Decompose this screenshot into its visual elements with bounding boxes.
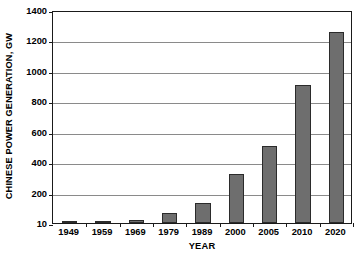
bar: [129, 220, 144, 223]
y-tick-mark: [49, 225, 53, 226]
y-tick-label: 1200: [26, 36, 47, 46]
x-tick-label: 1989: [192, 227, 213, 237]
bar: [162, 213, 177, 223]
x-tick-label: 1969: [125, 227, 146, 237]
bar: [195, 203, 210, 223]
y-axis-tick-labels: 10200400600800100012001400: [16, 11, 50, 224]
x-tick-label: 2010: [292, 227, 313, 237]
y-tick-label: 1000: [26, 67, 47, 77]
x-tick-mark: [353, 223, 354, 227]
x-tick-label: 2000: [225, 227, 246, 237]
bar: [262, 146, 277, 223]
x-axis-tick-labels: 194919591969197919892000200520102020: [52, 227, 352, 241]
y-tick-label: 10: [37, 219, 47, 229]
y-tick-label: 400: [31, 158, 47, 168]
x-tick-label: 1979: [158, 227, 179, 237]
plot-area: [52, 11, 352, 224]
x-tick-label: 1959: [92, 227, 113, 237]
bar: [62, 221, 77, 223]
bar-series: [53, 12, 351, 223]
x-tick-label: 2005: [258, 227, 279, 237]
y-tick-label: 1400: [26, 6, 47, 16]
y-tick-label: 200: [31, 189, 47, 199]
bar: [295, 85, 310, 223]
bar: [329, 32, 344, 223]
x-tick-label: 1949: [58, 227, 79, 237]
y-axis-title-text: CHINESE POWER GENERATION, GW: [4, 33, 14, 199]
y-tick-label: 800: [31, 97, 47, 107]
x-tick-label: 2020: [325, 227, 346, 237]
bar: [95, 221, 110, 223]
bar: [229, 174, 244, 223]
y-tick-label: 600: [31, 128, 47, 138]
x-axis-title: YEAR: [52, 241, 352, 251]
chart-figure: CHINESE POWER GENERATION, GW 10200400600…: [0, 0, 358, 271]
